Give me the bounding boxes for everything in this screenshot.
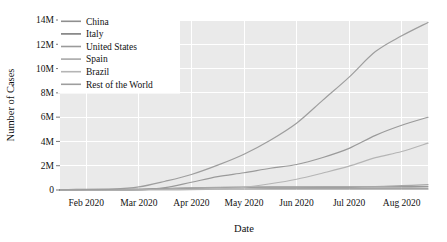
y-tick-label: 12M: [36, 40, 55, 50]
legend-label-spain: Spain: [86, 54, 108, 64]
y-tick-label: 6M: [41, 112, 55, 122]
x-tick-label: Mar 2020: [120, 198, 157, 208]
y-tick-label: 10M: [36, 64, 55, 74]
legend-label-rest-of-the-world: Rest of the World: [86, 80, 153, 90]
y-axis-title: Number of Cases: [5, 69, 16, 142]
legend-label-united-states: United States: [86, 42, 137, 52]
x-tick-label: Apr 2020: [173, 198, 209, 208]
y-tick-label: 2M: [41, 161, 55, 171]
legend-label-italy: Italy: [86, 29, 104, 39]
legend-label-china: China: [86, 17, 109, 27]
x-axis-title: Date: [234, 223, 254, 234]
y-tick-label: 0: [49, 185, 54, 195]
y-tick-label: 4M: [41, 137, 55, 147]
x-tick-label: Aug 2020: [383, 198, 421, 208]
y-tick-label: 8M: [41, 88, 55, 98]
covid-cases-line-chart: 02M4M6M8M10M12M14M Feb 2020Mar 2020Apr 2…: [0, 0, 447, 242]
x-axis-tick-labels: Feb 2020Mar 2020Apr 2020May 2020Jun 2020…: [68, 198, 420, 208]
x-tick-label: May 2020: [225, 198, 264, 208]
y-tick-label: 14M: [36, 15, 55, 25]
y-axis-tick-labels: 02M4M6M8M10M12M14M: [36, 15, 60, 195]
chart-canvas: 02M4M6M8M10M12M14M Feb 2020Mar 2020Apr 2…: [0, 0, 447, 242]
x-tick-label: Feb 2020: [68, 198, 104, 208]
x-tick-label: Jun 2020: [279, 198, 314, 208]
legend-label-brazil: Brazil: [86, 67, 110, 77]
legend: ChinaItalyUnited StatesSpainBrazilRest o…: [58, 12, 180, 94]
x-tick-label: Jul 2020: [333, 198, 366, 208]
